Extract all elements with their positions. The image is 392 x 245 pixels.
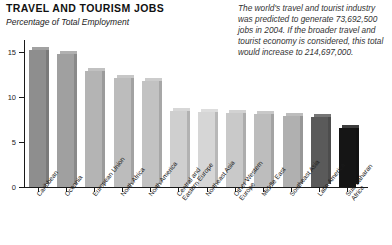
bar: [339, 128, 356, 187]
y-tick-label: 0: [12, 183, 16, 192]
bar-face: [170, 111, 187, 187]
y-tick: [19, 97, 25, 98]
bar-side: [243, 110, 246, 184]
y-tick: [19, 52, 25, 53]
bar-top: [286, 113, 303, 116]
bar-face: [311, 117, 328, 187]
y-tick: [19, 187, 25, 188]
page-title: TRAVEL AND TOURISM JOBS: [6, 2, 164, 14]
bar: [311, 117, 328, 187]
y-tick-label: 15: [8, 48, 16, 57]
chart-page: TRAVEL AND TOURISM JOBS Percentage of To…: [0, 0, 392, 245]
bar: [283, 116, 300, 187]
bar: [170, 111, 187, 187]
bar-face: [339, 128, 356, 187]
bar-face: [85, 71, 102, 187]
bar-face: [29, 50, 46, 187]
bar-top: [88, 68, 105, 71]
y-tick-label: 10: [8, 93, 16, 102]
y-axis-line: [24, 40, 25, 188]
bar-face: [226, 113, 243, 187]
bar-side: [74, 51, 77, 184]
bar-top: [201, 109, 218, 112]
bar-top: [342, 125, 359, 128]
bar-side: [102, 68, 105, 184]
bar-top: [229, 110, 246, 113]
bar-top: [117, 75, 134, 78]
chart-subtitle: Percentage of Total Employment: [6, 17, 129, 27]
bar-side: [215, 109, 218, 184]
bar-top: [257, 111, 274, 114]
bar: [57, 54, 74, 187]
bar-side: [46, 47, 49, 184]
bar: [85, 71, 102, 187]
bar-top: [173, 108, 190, 111]
y-tick: [19, 142, 25, 143]
bar: [226, 113, 243, 187]
bar-face: [57, 54, 74, 187]
bar-top: [32, 47, 49, 50]
bar-side: [159, 78, 162, 184]
y-tick-label: 5: [12, 138, 16, 147]
bar-top: [145, 78, 162, 81]
bar: [29, 50, 46, 187]
bar-top: [314, 114, 331, 117]
bar-side: [131, 75, 134, 184]
bar-face: [283, 116, 300, 187]
bar-top: [60, 51, 77, 54]
